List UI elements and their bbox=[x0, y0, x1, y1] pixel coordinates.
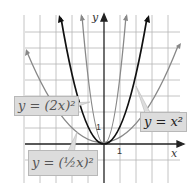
y-tick-1: 1 bbox=[96, 122, 101, 132]
x-axis-label: x bbox=[171, 147, 177, 160]
y-axis-label: y bbox=[92, 11, 98, 24]
x-tick-1: 1 bbox=[117, 146, 122, 156]
label-2x-squared: y = (2x)² bbox=[14, 96, 79, 116]
label-half-x-squared: y = (½x)² bbox=[28, 150, 98, 176]
label-x-squared: y = x² bbox=[140, 112, 187, 132]
